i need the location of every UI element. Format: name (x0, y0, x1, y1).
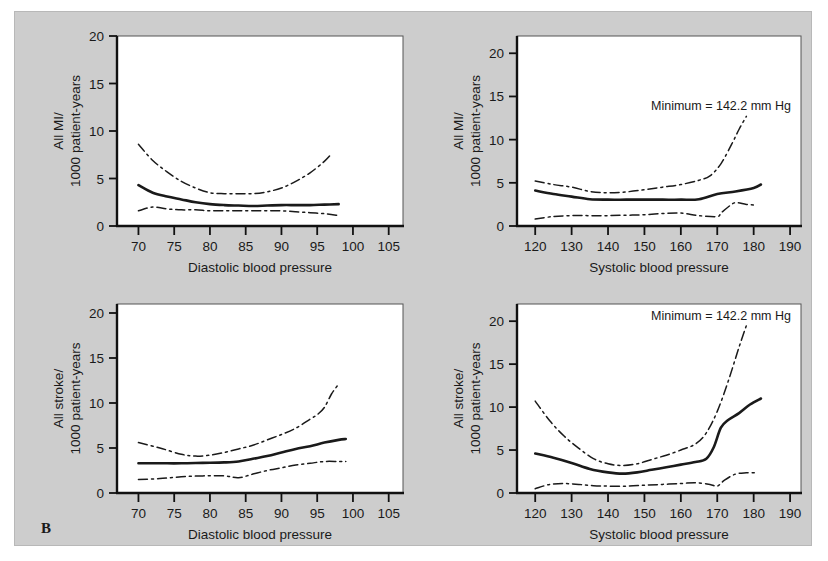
x-axis-title: Systolic blood pressure (589, 260, 729, 275)
plot-area-stroke-systolic: 05101520120130140150160170180190Systolic… (415, 280, 813, 547)
y-axis-title-line1: All stroke/ (451, 369, 466, 429)
x-tick-label: 95 (310, 239, 325, 254)
chart-stroke-systolic: 05101520120130140150160170180190Systolic… (415, 280, 813, 547)
x-tick-label: 70 (131, 506, 146, 521)
plot-area-mi-diastolic: 05101520707580859095100105Diastolic bloo… (15, 12, 415, 280)
x-tick-label: 105 (377, 506, 400, 521)
minimum-annotation: Minimum = 142.2 mm Hg (651, 99, 791, 113)
x-tick-label: 150 (633, 506, 656, 521)
minimum-annotation: Minimum = 142.2 mm Hg (651, 309, 791, 323)
x-tick-label: 190 (779, 239, 802, 254)
figure-panel: 05101520707580859095100105Diastolic bloo… (14, 11, 812, 546)
y-axis-title-line2: 1000 patient-years (68, 75, 83, 187)
y-axis-title-line2: 1000 patient-years (68, 342, 83, 454)
x-tick-label: 150 (633, 239, 656, 254)
x-tick-label: 80 (202, 506, 217, 521)
y-tick-label: 10 (89, 124, 104, 139)
y-tick-label: 20 (489, 46, 504, 61)
y-tick-label: 15 (489, 89, 504, 104)
x-tick-label: 120 (524, 506, 547, 521)
plot-area-stroke-diastolic: 05101520707580859095100105Diastolic bloo… (15, 280, 415, 547)
y-tick-label: 15 (89, 77, 104, 92)
plot-frame (117, 304, 403, 493)
y-tick-label: 20 (489, 314, 504, 329)
x-axis-title: Systolic blood pressure (589, 527, 729, 542)
x-tick-label: 105 (377, 239, 400, 254)
x-tick-label: 190 (779, 506, 802, 521)
x-tick-label: 140 (597, 239, 620, 254)
x-tick-label: 160 (670, 239, 693, 254)
x-tick-label: 100 (342, 506, 365, 521)
chart-mi-diastolic: 05101520707580859095100105Diastolic bloo… (15, 12, 415, 280)
y-tick-label: 5 (496, 176, 504, 191)
y-axis-title-line2: 1000 patient-years (468, 342, 483, 454)
y-axis-title-line1: All stroke/ (51, 369, 66, 429)
chart-stroke-diastolic: 05101520707580859095100105Diastolic bloo… (15, 280, 415, 547)
y-axis-title-line1: All MI/ (51, 112, 66, 150)
y-tick-label: 10 (489, 133, 504, 148)
plot-frame (117, 36, 403, 226)
figure-root: 05101520707580859095100105Diastolic bloo… (0, 0, 828, 561)
y-tick-label: 10 (489, 400, 504, 415)
x-tick-label: 80 (202, 239, 217, 254)
x-tick-label: 140 (597, 506, 620, 521)
y-tick-label: 0 (96, 219, 104, 234)
plot-frame (517, 36, 801, 226)
x-axis-title: Diastolic blood pressure (188, 260, 332, 275)
x-tick-label: 85 (238, 239, 253, 254)
panel-letter-b: B (41, 520, 52, 537)
x-tick-label: 75 (167, 506, 182, 521)
x-tick-label: 170 (706, 239, 729, 254)
x-tick-label: 180 (742, 239, 765, 254)
x-tick-label: 95 (310, 506, 325, 521)
chart-mi-systolic: 05101520120130140150160170180190Systolic… (415, 12, 813, 280)
x-tick-label: 75 (167, 239, 182, 254)
x-tick-label: 130 (560, 506, 583, 521)
y-tick-label: 5 (96, 441, 104, 456)
y-tick-label: 10 (89, 396, 104, 411)
y-tick-label: 15 (89, 351, 104, 366)
y-tick-label: 5 (496, 443, 504, 458)
x-axis-title: Diastolic blood pressure (188, 527, 332, 542)
x-tick-label: 90 (274, 239, 289, 254)
x-tick-label: 85 (238, 506, 253, 521)
x-tick-label: 90 (274, 506, 289, 521)
x-tick-label: 120 (524, 239, 547, 254)
y-tick-label: 15 (489, 357, 504, 372)
y-tick-label: 0 (96, 486, 104, 501)
x-tick-label: 70 (131, 239, 146, 254)
plot-area-mi-systolic: 05101520120130140150160170180190Systolic… (415, 12, 813, 280)
y-tick-label: 20 (89, 306, 104, 321)
x-tick-label: 100 (342, 239, 365, 254)
x-tick-label: 180 (742, 506, 765, 521)
x-tick-label: 130 (560, 239, 583, 254)
x-tick-label: 170 (706, 506, 729, 521)
y-tick-label: 5 (96, 172, 104, 187)
y-tick-label: 20 (89, 29, 104, 44)
y-axis-title-line2: 1000 patient-years (468, 75, 483, 187)
y-tick-label: 0 (496, 486, 504, 501)
x-tick-label: 160 (670, 506, 693, 521)
y-tick-label: 0 (496, 219, 504, 234)
y-axis-title-line1: All MI/ (451, 112, 466, 150)
